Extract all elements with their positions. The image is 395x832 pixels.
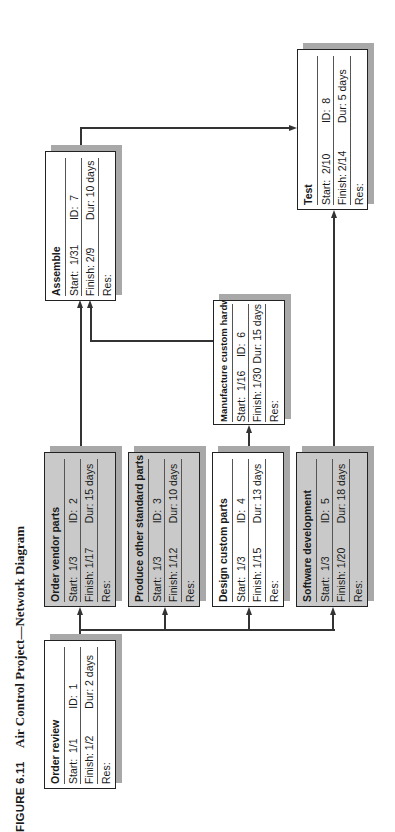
node-dur: 5 days	[336, 69, 348, 100]
node-dur: 13 days	[251, 464, 263, 501]
node-finish: 2/14	[336, 151, 348, 171]
edge-trunk-horizontal	[79, 629, 335, 631]
edge-7-8-horizontal	[80, 127, 290, 129]
node-name: Order review	[48, 647, 64, 784]
node-start: 1/3	[151, 556, 163, 571]
node-row-res: Res:	[265, 304, 282, 422]
node-row-finish: Finish: 1/20Dur: 18 days	[332, 459, 349, 602]
edge-6-7-horizontal	[90, 340, 214, 342]
node-row-start: Start: 1/3ID: 4	[232, 459, 249, 602]
figure-title: Air Control Project—Network Diagram	[12, 526, 27, 748]
node-dur: 15 days	[83, 464, 95, 501]
node-start: 1/3	[67, 556, 79, 571]
node-finish: 1/30	[251, 368, 263, 388]
node-row-res: Res:	[181, 459, 198, 602]
node-row-start: Start: 1/3ID: 5	[316, 459, 333, 602]
node-start: 1/31	[68, 245, 80, 265]
node-row-res: Res:	[265, 459, 282, 602]
node-dur: 10 days	[84, 161, 96, 198]
edge-1-4	[248, 614, 250, 630]
arrow-5-to-8	[331, 210, 337, 218]
node-finish: 1/15	[251, 548, 263, 568]
node-name: Test	[301, 56, 317, 205]
node-row-finish: Finish: 1/12Dur: 10 days	[164, 459, 181, 602]
node-row-res: Res:	[97, 459, 114, 602]
node-row-finish: Finish: 1/30Dur: 15 days	[248, 304, 265, 422]
node-finish: 2/9	[84, 248, 96, 263]
edge-6-7-vertical	[90, 305, 92, 341]
node-dur: 2 days	[83, 655, 95, 686]
node-row-finish: Finish: 1/2Dur: 2 days	[80, 647, 97, 784]
node-dur: 18 days	[335, 464, 347, 501]
node-id: 4	[235, 498, 247, 504]
node-finish: 1/20	[335, 548, 347, 568]
node-row-res: Res:	[349, 459, 366, 602]
node-id: 1	[67, 684, 79, 690]
node-row-res: Res:	[350, 56, 367, 205]
edge-2-7	[80, 305, 82, 453]
node-row-start: Start: 1/3ID: 3	[148, 459, 165, 602]
node-id: 6	[235, 332, 247, 338]
node-frame: Produce other standard parts Start: 1/3I…	[128, 452, 200, 607]
node-start: 1/3	[319, 556, 331, 571]
node-id: 5	[319, 498, 331, 504]
node-finish: 1/12	[167, 548, 179, 568]
node-row-finish: Finish: 1/15Dur: 13 days	[248, 459, 265, 602]
node-dur: 10 days	[167, 464, 179, 501]
node-row-start: Start: 2/10ID: 8	[317, 56, 334, 205]
node-frame: Software development Start: 1/3ID: 5 Fin…	[296, 452, 368, 607]
node-row-finish: Finish: 1/17Dur: 15 days	[80, 459, 97, 602]
node-row-res: Res:	[97, 647, 114, 784]
arrow-to-5	[330, 607, 336, 615]
node-name: Assemble	[49, 158, 65, 296]
node-finish: 1/2	[83, 736, 95, 751]
arrow-to-4	[246, 607, 252, 615]
node-row-start: Start: 1/3ID: 2	[64, 459, 81, 602]
node-frame: Manufacture custom hardware Start: 1/16I…	[213, 300, 285, 425]
node-id: 8	[320, 98, 332, 104]
arrow-7-to-8	[289, 125, 297, 131]
node-row-finish: Finish: 2/14Dur: 5 days	[333, 56, 350, 205]
node-id: 3	[151, 498, 163, 504]
node-start: 1/16	[235, 371, 247, 391]
node-name: Software development	[300, 459, 316, 602]
node-name: Design custom parts	[216, 459, 232, 602]
arrow-2-to-7	[77, 300, 83, 308]
node-row-start: Start: 1/1ID: 1	[64, 647, 81, 784]
node-name: Produce other standard parts	[132, 459, 148, 602]
node-row-start: Start: 1/31ID: 7	[65, 158, 82, 296]
node-row-finish: Finish: 2/9Dur: 10 days	[81, 158, 98, 296]
edge-1-5	[332, 614, 334, 630]
arrow-to-6	[246, 425, 252, 433]
node-finish: 1/17	[83, 548, 95, 568]
node-start: 1/1	[67, 738, 79, 753]
node-id: 7	[68, 195, 80, 201]
node-frame: Design custom parts Start: 1/3ID: 4 Fini…	[212, 452, 284, 607]
node-start: 2/10	[320, 154, 332, 174]
node-name: Order vendor parts	[48, 459, 64, 602]
node-dur: 15 days	[251, 304, 263, 341]
node-id: 2	[67, 498, 79, 504]
edge-5-8	[333, 215, 335, 453]
node-frame: Test Start: 2/10ID: 8 Finish: 2/14Dur: 5…	[297, 49, 368, 210]
arrow-to-2	[77, 607, 83, 615]
node-row-res: Res:	[98, 158, 115, 296]
node-start: 1/3	[235, 556, 247, 571]
node-frame: Assemble Start: 1/31ID: 7 Finish: 2/9Dur…	[45, 151, 116, 301]
node-row-start: Start: 1/16ID: 6	[232, 304, 249, 422]
node-name: Manufacture custom hardware	[217, 304, 232, 422]
figure-caption: FIGURE 6.11 Air Control Project—Network …	[12, 272, 32, 832]
arrow-to-3	[162, 607, 168, 615]
figure-label: FIGURE 6.11	[14, 761, 26, 832]
edge-1-3	[164, 614, 166, 630]
node-frame: Order vendor parts Start: 1/3ID: 2 Finis…	[44, 452, 116, 607]
arrow-6-to-7	[87, 300, 93, 308]
node-frame: Order review Start: 1/1ID: 1 Finish: 1/2…	[44, 640, 116, 789]
